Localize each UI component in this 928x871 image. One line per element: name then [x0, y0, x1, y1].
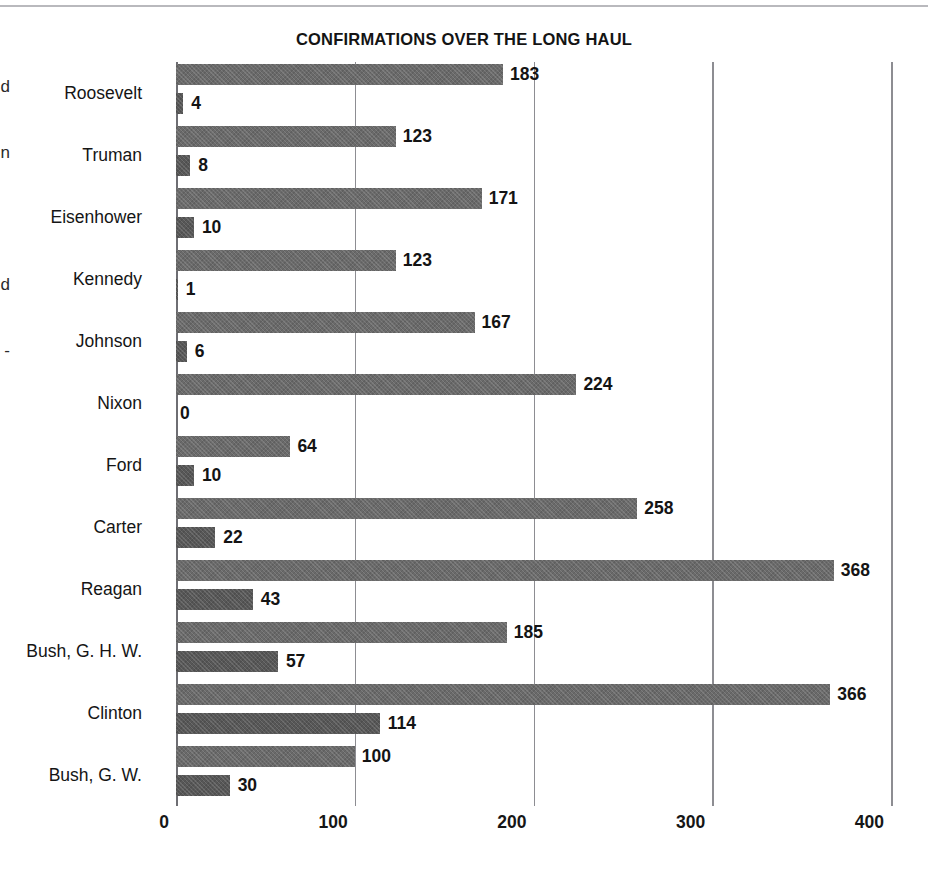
bar-value-label: 4	[191, 93, 201, 114]
bar-group-series-b: 114	[176, 713, 416, 734]
chart-row: Bush, G. H. W.18557	[0, 620, 928, 682]
chart-row: Truman1238	[0, 124, 928, 186]
bar-group-series-a: 185	[176, 622, 543, 643]
chart-row: Johnson1676	[0, 310, 928, 372]
chart-row: Carter25822	[0, 496, 928, 558]
x-axis-tick-label: 400	[855, 812, 889, 833]
category-label: Eisenhower	[0, 207, 160, 228]
bar-group-series-b: 57	[176, 651, 305, 672]
category-label: Bush, G. H. W.	[0, 641, 160, 662]
bar	[176, 155, 190, 176]
bar-group-series-a: 123	[176, 126, 432, 147]
bar-group-series-a: 123	[176, 250, 432, 271]
bar-value-label: 185	[514, 622, 543, 643]
x-axis-tick-label: 300	[676, 812, 710, 833]
bar-value-label: 64	[297, 436, 316, 457]
category-label: Clinton	[0, 703, 160, 724]
bar-group-series-a: 64	[176, 436, 317, 457]
bar-group-series-a: 183	[176, 64, 539, 85]
x-axis-tick-label: 0	[159, 812, 174, 833]
bar-group-series-a: 368	[176, 560, 870, 581]
bar-group-series-a: 171	[176, 188, 518, 209]
bar-group-series-b: 8	[176, 155, 208, 176]
bar-group-series-a: 167	[176, 312, 511, 333]
bar	[176, 465, 194, 486]
bar	[176, 775, 230, 796]
bar-value-label: 30	[238, 775, 257, 796]
chart-row: Bush, G. W.10030	[0, 744, 928, 806]
bar-value-label: 10	[202, 465, 221, 486]
chart-row: Roosevelt1834	[0, 62, 928, 124]
bar-value-label: 0	[180, 403, 190, 424]
bar-group-series-b: 4	[176, 93, 201, 114]
bar	[176, 374, 576, 395]
bar-group-series-b: 10	[176, 217, 221, 238]
bar-value-label: 1	[186, 279, 196, 300]
bar-value-label: 6	[195, 341, 205, 362]
bar-group-series-b: 6	[176, 341, 204, 362]
bar-value-label: 258	[644, 498, 673, 519]
bar-value-label: 123	[403, 126, 432, 147]
bar	[176, 341, 187, 362]
bar-group-series-a: 224	[176, 374, 613, 395]
bar-value-label: 171	[489, 188, 518, 209]
bar	[176, 217, 194, 238]
bar-value-label: 100	[362, 746, 391, 767]
bar	[176, 560, 834, 581]
bar-group-series-b: 1	[176, 279, 196, 300]
chart-row: Clinton366114	[0, 682, 928, 744]
bar	[176, 188, 482, 209]
bar-value-label: 57	[286, 651, 305, 672]
category-label: Nixon	[0, 393, 160, 414]
bar	[176, 126, 396, 147]
category-label: Carter	[0, 517, 160, 538]
bar-group-series-a: 258	[176, 498, 673, 519]
bar	[176, 312, 475, 333]
x-axis-tick-label: 100	[319, 812, 353, 833]
bar-value-label: 22	[223, 527, 242, 548]
bar-group-series-b: 22	[176, 527, 243, 548]
bar-value-label: 183	[510, 64, 539, 85]
bar-chart-plot: 0100200300400Roosevelt1834Truman1238Eise…	[0, 0, 928, 871]
category-label: Bush, G. W.	[0, 765, 160, 786]
bar-value-label: 123	[403, 250, 432, 271]
chart-row: Reagan36843	[0, 558, 928, 620]
bar	[176, 651, 278, 672]
category-label: Ford	[0, 455, 160, 476]
bar	[176, 64, 503, 85]
chart-row: Eisenhower17110	[0, 186, 928, 248]
bar	[176, 622, 507, 643]
category-label: Reagan	[0, 579, 160, 600]
bar	[176, 527, 215, 548]
bar	[176, 746, 355, 767]
category-label: Kennedy	[0, 269, 160, 290]
bar	[176, 589, 253, 610]
bar-value-label: 10	[202, 217, 221, 238]
bar-group-series-b: 10	[176, 465, 221, 486]
bar-value-label: 114	[388, 713, 416, 734]
bar-value-label: 43	[261, 589, 280, 610]
bar-group-series-b: 43	[176, 589, 280, 610]
bar-value-label: 8	[198, 155, 208, 176]
bar	[176, 250, 396, 271]
chart-row: Ford6410	[0, 434, 928, 496]
category-label: Roosevelt	[0, 83, 160, 104]
category-label: Truman	[0, 145, 160, 166]
bar	[176, 279, 178, 300]
chart-row: Kennedy1231	[0, 248, 928, 310]
x-axis-tick-label: 200	[497, 812, 531, 833]
bar-value-label: 167	[482, 312, 511, 333]
bar-value-label: 366	[837, 684, 866, 705]
bar-group-series-b: 0	[176, 403, 190, 424]
bar-group-series-b: 30	[176, 775, 257, 796]
bar-value-label: 368	[841, 560, 870, 581]
bar	[176, 713, 380, 734]
bar-group-series-a: 100	[176, 746, 391, 767]
bar	[176, 93, 183, 114]
bar	[176, 436, 290, 457]
category-label: Johnson	[0, 331, 160, 352]
bar-value-label: 224	[583, 374, 612, 395]
bar	[176, 498, 637, 519]
bar	[176, 684, 830, 705]
bar-group-series-a: 366	[176, 684, 866, 705]
